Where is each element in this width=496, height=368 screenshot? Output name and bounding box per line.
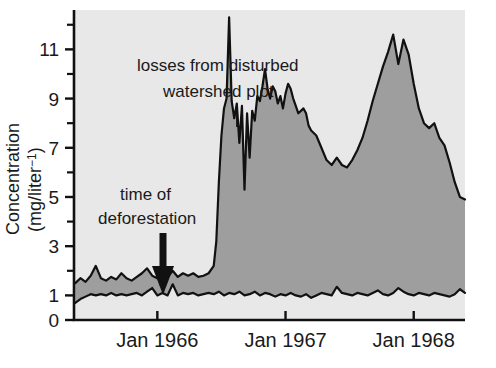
nitrate-concentration-chart: 11975310 Jan 1966Jan 1967Jan 1968 Concen… xyxy=(0,0,496,368)
disturbed-annotation-line1: losses from disturbed xyxy=(137,56,299,75)
y-axis-title-paren: ) xyxy=(25,147,45,153)
y-axis-tick-label: 5 xyxy=(48,187,59,208)
x-axis-tick-label: Jan 1968 xyxy=(373,329,455,351)
y-axis-tick-label: 9 xyxy=(48,89,59,110)
x-axis-tick-labels: Jan 1966Jan 1967Jan 1968 xyxy=(116,329,455,351)
disturbed-annotation-line2: watershed plot xyxy=(162,82,274,101)
y-axis-ticks xyxy=(65,25,74,320)
y-axis-tick-label: 3 xyxy=(48,236,59,257)
deforestation-annotation-line1: time of xyxy=(120,185,171,204)
y-axis-tick-label: 1 xyxy=(48,285,59,306)
y-axis-title-line1: Concentration xyxy=(3,123,23,235)
deforestation-annotation-line2: deforestation xyxy=(98,209,196,228)
y-axis-tick-label: 11 xyxy=(39,39,59,60)
y-axis-tick-label: 0 xyxy=(48,310,59,331)
y-axis-tick-label: 7 xyxy=(48,138,59,159)
x-axis-tick-label: Jan 1966 xyxy=(116,329,198,351)
y-axis-title-exponent: −1 xyxy=(25,153,39,167)
chart-svg: 11975310 Jan 1966Jan 1967Jan 1968 Concen… xyxy=(0,0,496,368)
y-axis-title-line2: (mg/liter−1) xyxy=(25,147,45,232)
y-axis-title-units: (mg/liter xyxy=(25,167,45,232)
y-axis-title: Concentration (mg/liter−1) xyxy=(3,123,45,235)
x-axis-tick-label: Jan 1967 xyxy=(244,329,326,351)
